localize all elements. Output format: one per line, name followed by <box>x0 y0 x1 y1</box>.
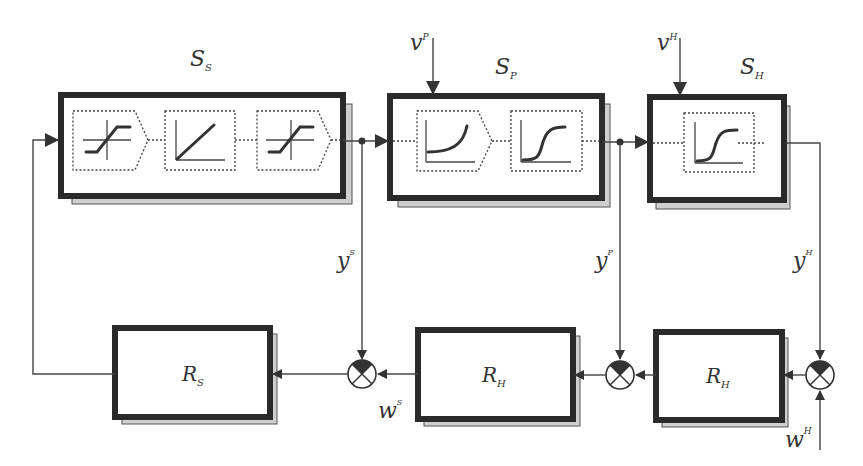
disturbance-label-v-h: vH <box>657 30 677 55</box>
plant-label-s-p: SP <box>495 54 517 81</box>
plant-label-s-h: SH <box>740 54 764 81</box>
plant-s-p: SP <box>390 54 610 207</box>
control-diagram: SS SP SH <box>0 0 863 466</box>
controller-r-h-right: RH <box>656 332 788 427</box>
summing-junction-3 <box>806 361 834 389</box>
plant-s-h: SH <box>650 54 790 209</box>
plant-label-s-s: SS <box>190 46 212 73</box>
output-label-y-p: yP <box>594 248 613 273</box>
disturbance-label-v-p: vP <box>410 30 429 55</box>
controller-r-s: RS <box>115 328 277 424</box>
summing-junction-2 <box>606 361 634 389</box>
output-label-y-h: yH <box>792 248 813 273</box>
setpoint-label-w-s: wS <box>378 398 403 423</box>
output-label-y-s: yS <box>336 248 355 273</box>
setpoint-label-w-h: wH <box>785 426 812 452</box>
summing-junction-1 <box>348 360 376 388</box>
controller-r-h-middle: RH <box>418 330 580 426</box>
plant-s-s: SS <box>61 46 352 204</box>
